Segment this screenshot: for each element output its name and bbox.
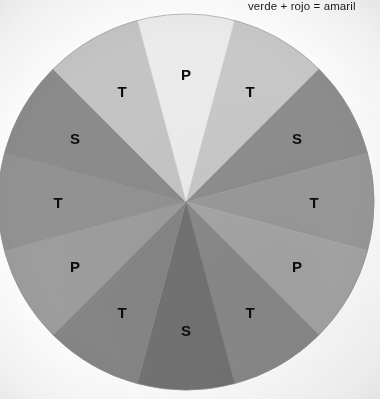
color-wheel: PTSTPTSTPTST	[0, 0, 380, 399]
wheel-segment-label: T	[245, 83, 254, 100]
wheel-segment-label: T	[245, 304, 254, 321]
color-wheel-svg: PTSTPTSTPTST	[0, 0, 380, 399]
wheel-segment-label: P	[181, 66, 191, 83]
wheel-segment-label: T	[309, 194, 318, 211]
wheel-segment-label: T	[53, 194, 62, 211]
wheel-segment-label: T	[117, 304, 126, 321]
wheel-segment-label: S	[70, 130, 80, 147]
wheel-segment-label: P	[70, 258, 80, 275]
wheel-segment-label: T	[117, 83, 126, 100]
wheel-segment-label: P	[292, 258, 302, 275]
wheel-segment-label: S	[181, 322, 191, 339]
wheel-segment-label: S	[292, 130, 302, 147]
